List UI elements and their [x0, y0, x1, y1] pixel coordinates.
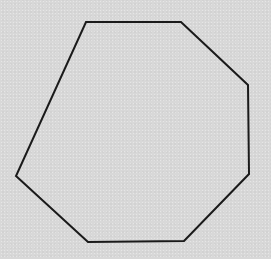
diagram-canvas	[0, 0, 271, 259]
diagram-svg	[0, 0, 271, 259]
heptagon-shape	[16, 22, 249, 242]
